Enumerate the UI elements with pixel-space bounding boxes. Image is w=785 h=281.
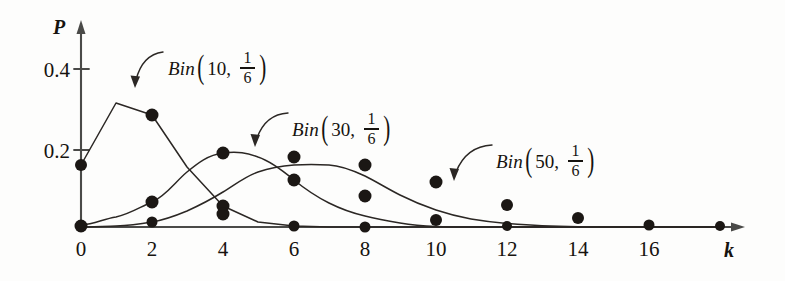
curve-bin50 [81,165,720,227]
y-axis-arrowhead [77,20,86,34]
leader-bin30 [257,113,288,138]
data-point [359,159,372,172]
markers-bin30 [75,147,513,233]
data-point [430,214,442,226]
leader-arrowhead-bin10 [131,76,141,89]
annotation-bin30-fn: Bin [292,120,319,139]
plot-area: P k 0.2 0.4 0 2 4 6 8 10 12 14 16 [0,0,785,281]
data-point [217,147,230,160]
annotation-bin30-comma: , [350,120,362,139]
leader-bin10 [136,52,163,80]
annotation-bin30-close-paren: ) [383,111,390,145]
x-tick-label-4: 4 [218,237,229,261]
annotation-bin10-n: 10 [206,59,226,78]
leader-arrowhead-bin30 [251,134,261,147]
data-point [75,159,87,171]
data-point [217,208,230,221]
annotation-bin50-fn: Bin [496,152,523,171]
x-tick-label-8: 8 [360,237,371,261]
leader-arrowhead-bin50 [450,168,460,181]
data-point [289,221,300,232]
data-point [146,196,159,209]
x-tick-label-6: 6 [289,237,300,261]
annotation-bin50: Bin ( 50 , 1 6 ) [496,143,596,179]
data-point [147,217,158,228]
y-tick-label-0.2: 0.2 [44,139,70,163]
annotation-bin30-open-paren: ( [321,111,328,145]
annotation-bin30: Bin ( 30 , 1 6 ) [292,111,392,147]
data-point [572,212,584,224]
y-axis-label: P [52,16,66,38]
data-point [715,221,725,231]
annotation-bin10-close-paren: ) [259,50,266,84]
annotation-bin50-n: 50 [534,152,554,171]
annotation-bin50-close-paren: ) [587,143,594,177]
data-point [359,190,372,203]
data-point [430,176,443,189]
annotation-bin30-fraction: 1 6 [362,111,381,147]
x-axis-arrowhead [731,223,745,232]
data-point [501,199,513,211]
data-point [146,109,159,122]
data-point [288,174,301,187]
y-axis [74,20,89,227]
annotation-bin10-comma: , [226,59,238,78]
data-point [75,220,88,233]
annotation-bin50-numerator: 1 [570,143,582,159]
annotation-bin10-fn: Bin [168,59,195,78]
annotation-bin50-denominator: 6 [570,163,582,179]
annotation-bin10-numerator: 1 [242,50,254,66]
annotation-bin10-denominator: 6 [242,70,254,86]
data-point [644,220,655,231]
annotation-bin10: Bin ( 10 , 1 6 ) [168,50,268,86]
curve-bin10 [81,103,720,227]
x-axis-label: k [724,239,734,261]
y-tick-label-0.4: 0.4 [44,58,71,82]
annotation-bin50-fraction: 1 6 [566,143,585,179]
x-tick-label-14: 14 [568,237,590,261]
annotation-bin50-comma: , [554,152,566,171]
binomial-distribution-chart: P k 0.2 0.4 0 2 4 6 8 10 12 14 16 Bin ( … [0,0,785,281]
x-tick-label-12: 12 [497,237,518,261]
data-point [502,221,512,231]
x-tick-label-2: 2 [147,237,158,261]
annotation-bin50-open-paren: ( [525,143,532,177]
x-tick-label-10: 10 [426,237,447,261]
annotation-bin30-n: 30 [330,120,350,139]
annotation-bin10-fraction: 1 6 [238,50,257,86]
annotation-bin10-open-paren: ( [197,50,204,84]
annotation-bin30-numerator: 1 [366,111,378,127]
leader-bin50 [456,145,492,172]
annotation-bin30-denominator: 6 [366,131,378,147]
data-point [288,151,301,164]
data-point [360,222,371,233]
x-tick-label-0: 0 [76,237,87,261]
x-tick-label-16: 16 [639,237,660,261]
